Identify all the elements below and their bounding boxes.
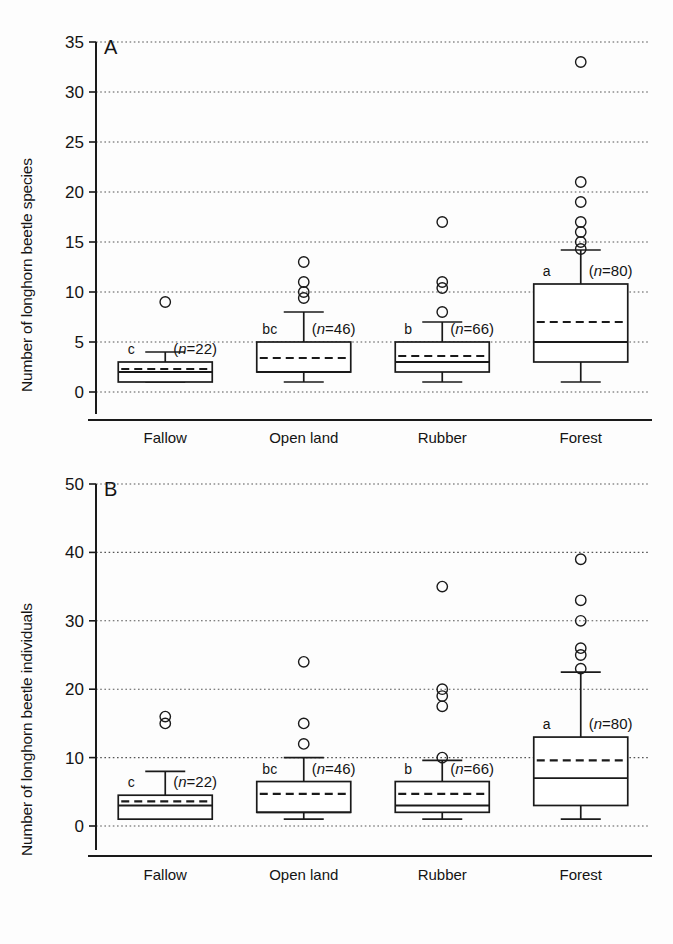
sample-size-label: (n=46) — [312, 760, 356, 777]
outlier-point — [299, 739, 309, 749]
sample-size-label: (n=80) — [589, 715, 633, 732]
sample-size-label: (n=66) — [450, 760, 494, 777]
y-tick-label-0: 0 — [75, 383, 84, 402]
x-category-label: Open land — [269, 429, 338, 446]
x-category-label: Open land — [269, 866, 338, 883]
y-tick-label-35: 35 — [65, 33, 84, 52]
box-iqr — [257, 782, 351, 813]
outlier-point — [437, 701, 447, 711]
x-category-label: Fallow — [144, 866, 188, 883]
y-tick-label-20: 20 — [65, 680, 84, 699]
panel-a-plot: 05101520253035c(n=22)Fallowbc(n=46)Open … — [0, 0, 673, 470]
outlier-point — [160, 297, 170, 307]
significance-letter: c — [128, 341, 135, 357]
boxplot-fallow: c(n=22) — [118, 711, 217, 819]
outlier-point — [299, 257, 309, 267]
outlier-point — [299, 277, 309, 287]
sample-size-label: (n=22) — [173, 773, 217, 790]
y-tick-label-15: 15 — [65, 233, 84, 252]
y-tick-label-20: 20 — [65, 183, 84, 202]
boxplot-open-land: bc(n=46) — [257, 657, 356, 820]
outlier-point — [576, 227, 586, 237]
significance-letter: b — [404, 321, 412, 337]
outlier-point — [576, 57, 586, 67]
y-tick-label-30: 30 — [65, 83, 84, 102]
y-tick-label-50: 50 — [65, 475, 84, 494]
panel-a: Number of longhorn beetle species A 0510… — [0, 0, 673, 470]
outlier-point — [437, 691, 447, 701]
boxplot-forest: a(n=80) — [534, 57, 633, 382]
outlier-point — [160, 718, 170, 728]
y-tick-label-40: 40 — [65, 543, 84, 562]
panel-b-plot: 01020304050c(n=22)Fallowbc(n=46)Open lan… — [0, 470, 673, 944]
y-tick-label-10: 10 — [65, 283, 84, 302]
box-iqr — [395, 782, 489, 813]
outlier-point — [576, 217, 586, 227]
y-tick-label-25: 25 — [65, 133, 84, 152]
y-tick-label-30: 30 — [65, 612, 84, 631]
y-tick-label-0: 0 — [75, 817, 84, 836]
boxplot-forest: a(n=80) — [534, 554, 633, 819]
outlier-point — [299, 293, 309, 303]
boxplot-fallow: c(n=22) — [118, 297, 217, 382]
sample-size-label: (n=80) — [589, 262, 633, 279]
outlier-point — [576, 554, 586, 564]
box-iqr — [118, 795, 212, 819]
boxplot-rubber: b(n=66) — [395, 581, 494, 819]
outlier-point — [576, 650, 586, 660]
boxplot-open-land: bc(n=46) — [257, 257, 356, 382]
sample-size-label: (n=66) — [450, 320, 494, 337]
outlier-point — [576, 177, 586, 187]
outlier-point — [437, 277, 447, 287]
outlier-point — [437, 283, 447, 293]
significance-letter: a — [543, 263, 551, 279]
boxplot-figure: Number of longhorn beetle species A 0510… — [0, 0, 673, 944]
y-tick-label-10: 10 — [65, 749, 84, 768]
outlier-point — [576, 197, 586, 207]
x-category-label: Rubber — [418, 866, 467, 883]
outlier-point — [437, 581, 447, 591]
x-category-label: Fallow — [144, 429, 188, 446]
sample-size-label: (n=46) — [312, 320, 356, 337]
x-category-label: Forest — [559, 429, 602, 446]
outlier-point — [437, 217, 447, 227]
significance-letter: b — [404, 761, 412, 777]
sample-size-label: (n=22) — [173, 340, 217, 357]
significance-letter: bc — [262, 321, 277, 337]
box-iqr — [534, 737, 628, 805]
y-tick-label-5: 5 — [75, 333, 84, 352]
outlier-point — [299, 718, 309, 728]
significance-letter: a — [543, 716, 551, 732]
significance-letter: bc — [262, 761, 277, 777]
outlier-point — [437, 307, 447, 317]
significance-letter: c — [128, 774, 135, 790]
x-category-label: Rubber — [418, 429, 467, 446]
outlier-point — [576, 595, 586, 605]
x-category-label: Forest — [559, 866, 602, 883]
outlier-point — [299, 657, 309, 667]
panel-b: Number of longhorn beetle individuals B … — [0, 470, 673, 944]
